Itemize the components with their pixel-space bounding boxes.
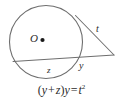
label-tangent-t: t (96, 24, 99, 34)
equation-plus-sign: + (47, 83, 56, 97)
equation-exponent-two: 2 (82, 83, 86, 91)
equation-term-y2: y (64, 83, 69, 97)
equation-equals-sign: = (70, 83, 79, 97)
geometry-figure: O t y z (y+z)y=t2 (0, 0, 123, 103)
secant-segment-line (13, 55, 114, 62)
label-chord-z: z (47, 66, 51, 75)
equation-caption: (y+z)y=t2 (0, 83, 123, 98)
label-center-o: O (30, 33, 38, 44)
center-point-dot (40, 38, 44, 42)
label-external-segment-y: y (79, 61, 83, 71)
circle-shape (10, 6, 83, 79)
